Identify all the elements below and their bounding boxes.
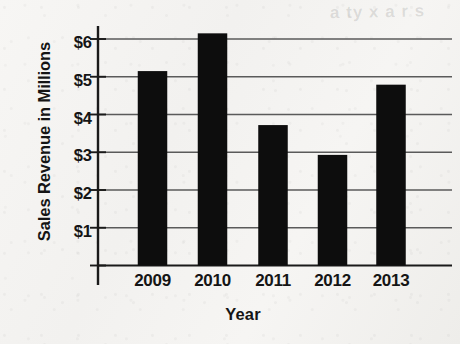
x-axis-title-text: Year [225, 305, 261, 323]
bar-2011[interactable] [258, 125, 288, 265]
bars-group [138, 33, 406, 265]
y-tick-label: $1 [52, 222, 92, 241]
y-axis-tick-labels: $6 $5 $4 $3 $2 $1 [52, 0, 92, 344]
y-tick-label: $6 [52, 33, 92, 52]
x-tick-label-2010: 2010 [194, 271, 231, 291]
bar-2009[interactable] [138, 71, 168, 265]
y-axis-title: Sales Revenue in Millions [35, 17, 54, 267]
x-tick-label-2012: 2012 [314, 271, 351, 291]
y-tick-label: $5 [52, 70, 92, 89]
x-tick-label-2013: 2013 [373, 271, 410, 291]
x-tick-label-2011: 2011 [255, 271, 291, 291]
bar-2010[interactable] [198, 33, 228, 265]
bar-2013[interactable] [376, 85, 406, 266]
x-axis-title: Year [0, 305, 460, 324]
bar-2012[interactable] [318, 155, 348, 266]
x-tick-label-2009: 2009 [134, 271, 171, 291]
bar-chart: $6 $5 $4 $3 $2 $1 Sales Revenue in Milli… [0, 0, 460, 344]
y-tick-label: $2 [52, 184, 92, 203]
y-tick-label: $4 [52, 108, 92, 127]
y-tick-label: $3 [52, 146, 92, 165]
